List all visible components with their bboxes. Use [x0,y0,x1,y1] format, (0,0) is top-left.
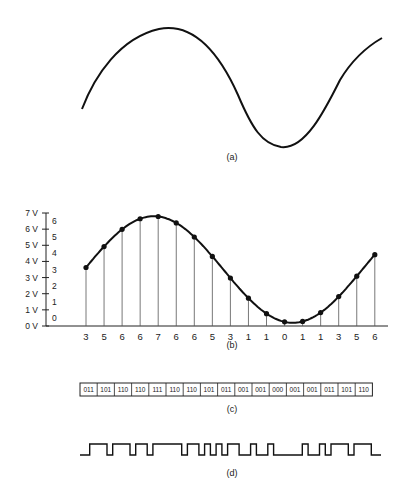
sample-point [282,319,287,324]
binary-code-cell: 110 [187,386,198,393]
sampled-chart: 0 V1 V2 V3 V4 V5 V6 V7 V0123456 35667665… [25,208,388,342]
sample-point [354,274,359,279]
voltage-tick-label: 1 V [25,305,38,315]
level-tick-label: 4 [52,248,57,258]
sample-value-label: 5 [354,331,359,342]
caption-c: (c) [227,404,238,414]
caption-b: (b) [227,340,238,350]
binary-code-cell: 110 [135,386,146,393]
binary-code-cell: 111 [152,386,162,393]
sample-value-label: 5 [210,331,215,342]
sample-value-label: 6 [174,331,179,342]
sample-value-label: 7 [156,331,161,342]
level-tick-label: 3 [52,265,57,275]
sample-value-label: 1 [300,331,305,342]
sample-point [318,310,323,315]
sample-stems [86,216,375,326]
sample-value-label: 5 [101,331,106,342]
binary-code-cell: 101 [341,386,352,393]
binary-code-cell: 011 [83,386,94,393]
sample-value-label: 3 [336,331,341,342]
binary-code-cell: 001 [255,386,266,393]
voltage-tick-label: 7 V [25,208,38,218]
binary-code-cell: 011 [324,386,335,393]
sample-point [83,265,88,270]
sample-point [228,275,233,280]
sample-point [246,296,251,301]
level-tick-label: 1 [52,297,57,307]
sample-value-label: 6 [192,331,197,342]
binary-code-row: 0111011101101111101101010110010010000010… [80,383,372,396]
pulse-train [80,444,381,455]
voltage-tick-label: 6 V [25,224,38,234]
sample-point [120,227,125,232]
sample-point [264,311,269,316]
sample-value-label: 1 [264,331,269,342]
sample-point [192,234,197,239]
sample-point [300,319,305,324]
sample-value-label: 6 [138,331,143,342]
caption-d: (d) [227,468,238,478]
sample-point [210,254,215,259]
voltage-tick-label: 2 V [25,289,38,299]
voltage-tick-label: 0 V [25,321,38,331]
level-tick-label: 5 [52,232,57,242]
sample-value-label: 6 [372,331,377,342]
binary-code-cell: 110 [169,386,180,393]
sample-value-label: 6 [119,331,124,342]
sample-value-label: 3 [83,331,88,342]
level-tick-label: 6 [52,216,57,226]
analog-sine-curve [82,28,382,147]
binary-code-cell: 110 [359,386,370,393]
voltage-tick-label: 5 V [25,240,38,250]
sample-value-label: 1 [246,331,251,342]
binary-code-cell: 001 [290,386,301,393]
sample-value-label: 1 [318,331,323,342]
binary-code-cell: 001 [307,386,318,393]
binary-code-cell: 001 [238,386,249,393]
sample-point [138,216,143,221]
sample-point [101,244,106,249]
binary-code-cell: 110 [118,386,129,393]
binary-code-cell: 101 [204,386,215,393]
voltage-tick-label: 3 V [25,273,38,283]
sample-point [174,220,179,225]
binary-code-cell: 101 [100,386,111,393]
sample-value-label: 0 [282,331,287,342]
binary-code-cell: 000 [272,386,283,393]
binary-code-cell: 011 [221,386,232,393]
sample-point [372,252,377,257]
voltage-tick-label: 4 V [25,256,38,266]
figure-canvas: (a) 0 V1 V2 V3 V4 V5 V6 V7 V0123456 3566… [0,0,407,495]
sample-point [336,294,341,299]
level-tick-label: 2 [52,281,57,291]
sample-point [156,214,161,219]
y-axis-ticks: 0 V1 V2 V3 V4 V5 V6 V7 V0123456 [25,208,57,331]
level-tick-label: 0 [52,313,57,323]
caption-a: (a) [227,152,238,162]
